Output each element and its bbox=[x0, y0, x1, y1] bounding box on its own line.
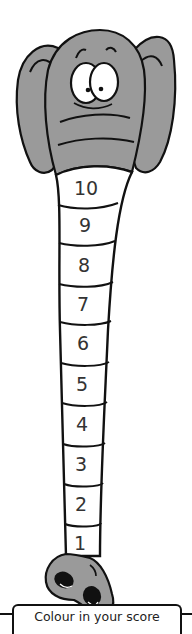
trunk-segment-8[interactable]: 8 bbox=[64, 255, 104, 275]
instruction-caption: Colour in your score bbox=[12, 604, 182, 634]
right-eye bbox=[90, 63, 118, 101]
trunk-segment-6[interactable]: 6 bbox=[63, 333, 103, 353]
trunk-segment-4[interactable]: 4 bbox=[62, 414, 102, 434]
trunk-segment-7[interactable]: 7 bbox=[63, 294, 103, 314]
trunk-segment-1[interactable]: 1 bbox=[60, 533, 100, 553]
trunk-segment-9[interactable]: 9 bbox=[65, 215, 105, 235]
trunk-segment-10[interactable]: 10 bbox=[66, 178, 106, 198]
trunk-segment-5[interactable]: 5 bbox=[62, 374, 102, 394]
trunk-segment-2[interactable]: 2 bbox=[61, 494, 101, 514]
head bbox=[45, 30, 145, 175]
trunk-segment-3[interactable]: 3 bbox=[61, 454, 101, 474]
